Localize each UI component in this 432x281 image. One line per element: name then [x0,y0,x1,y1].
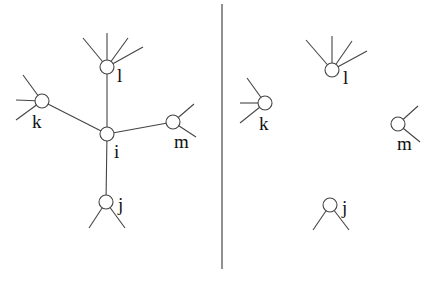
graph-diagram: lkimj lkmj [0,0,432,281]
node-k [35,94,49,108]
node-j [323,198,337,212]
node-m [391,117,405,131]
node-label-k: k [32,111,42,132]
node-m [166,115,180,129]
node-label-l: l [117,65,122,86]
edge-i-k [42,101,107,134]
node-j [99,195,113,209]
node-label-j: j [117,194,123,215]
edge-i-m [107,122,173,134]
node-l [100,60,114,74]
right-graph-panel: lkmj [240,36,420,230]
node-l [325,63,339,77]
node-i [100,127,114,141]
node-label-k: k [259,113,269,134]
node-label-j: j [341,197,347,218]
node-label-i: i [114,141,119,162]
node-label-l: l [343,67,348,88]
node-label-m: m [174,131,189,152]
edge-i-j [106,134,107,202]
left-graph-panel: lkimj [16,33,196,228]
node-label-m: m [397,133,412,154]
node-k [258,96,272,110]
